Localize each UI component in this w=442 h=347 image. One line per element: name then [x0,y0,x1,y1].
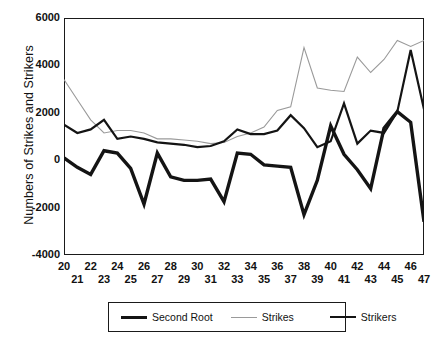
x-tick-label: 39 [306,273,328,285]
legend-line-swatch [121,316,147,319]
x-tick-label: 47 [413,273,435,285]
x-tick-label: 34 [240,260,262,272]
chart-figure: Numbers of Strikes and Strikers 60004000… [0,0,442,347]
x-tick-label: 21 [66,273,88,285]
x-tick-label: 36 [266,260,288,272]
x-tick-label: 45 [386,273,408,285]
x-tick-label: 31 [200,273,222,285]
x-tick-label: 37 [280,273,302,285]
x-tick-label: 23 [93,273,115,285]
x-tick-label: 26 [133,260,155,272]
x-tick-label: 32 [213,260,235,272]
legend-label: Strikes [262,311,294,323]
x-tick-label: 40 [320,260,342,272]
legend-entry[interactable]: Strikers [330,311,397,323]
legend-line-swatch [330,316,356,318]
x-tick-label: 27 [146,273,168,285]
legend-line-swatch [231,317,257,318]
x-tick-label: 33 [226,273,248,285]
x-tick-label: 41 [333,273,355,285]
x-tick-label: 44 [373,260,395,272]
x-tick-label: 38 [293,260,315,272]
x-tick-label: 29 [173,273,195,285]
legend-label: Strikers [361,311,397,323]
x-tick-label: 24 [106,260,128,272]
legend-label: Second Root [152,311,213,323]
x-tick-label: 20 [53,260,75,272]
x-tick-label: 28 [160,260,182,272]
x-tick-label: 25 [120,273,142,285]
x-tick-label: 46 [400,260,422,272]
x-tick-label: 22 [80,260,102,272]
legend-entry[interactable]: Second Root [121,311,213,323]
legend-entry[interactable]: Strikes [231,311,294,323]
x-tick-label: 35 [253,273,275,285]
x-axis-tick-labels: 2021222324252627282930313233343536373839… [0,0,442,347]
x-tick-label: 42 [346,260,368,272]
x-tick-label: 30 [186,260,208,272]
chart-legend: Second RootStrikesStrikers [108,302,346,332]
x-tick-label: 43 [360,273,382,285]
